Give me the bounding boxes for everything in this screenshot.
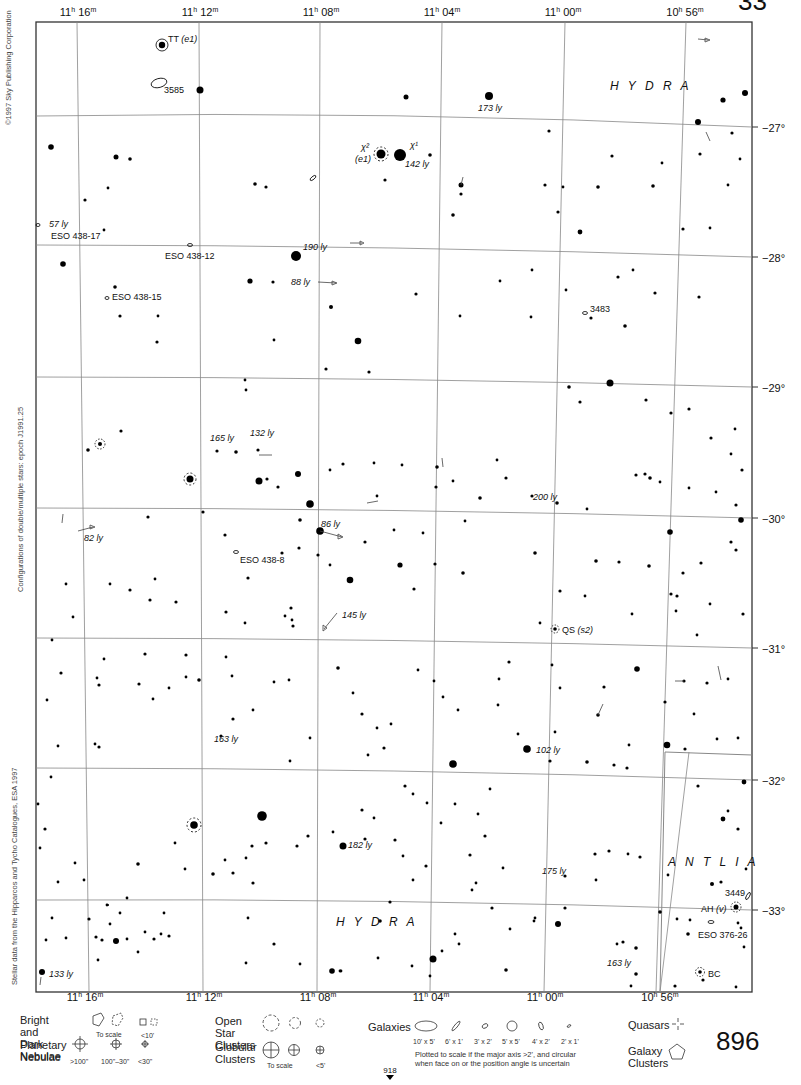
ra-label: 10h 56m [641,991,678,1003]
data-source-note: Stellar data from the Hipparcos and Tych… [10,768,19,986]
next-page-ref[interactable]: 918 [380,1066,400,1075]
top-page-fragment: 33 [738,0,767,17]
ra-label: 11h 00m [545,6,582,18]
star-chart: 11h 16m 11h 12m 11h 08m 11h 04m 11h 00m … [0,0,801,1085]
marked-stars [98,442,702,974]
svg-text:−32°: −32° [762,775,785,787]
svg-text:102 ly: 102 ly [536,745,561,755]
svg-text:QS (s2): QS (s2) [562,625,593,635]
svg-text:132 ly: 132 ly [250,428,275,438]
chart-frame [36,22,752,992]
svg-text:88 ly: 88 ly [291,277,311,287]
epoch-note: Configurations of double/multiple stars:… [16,407,25,592]
svg-text:χ¹: χ¹ [409,140,418,150]
ra-label: 11h 00m [527,991,564,1003]
legend-symbols [72,1013,685,1059]
svg-text:3585: 3585 [164,85,184,95]
ra-label: 11h 12m [186,991,223,1003]
legend-planetary-caption: >100" [70,1056,88,1068]
legend-galaxy-size: 5' x 5' [502,1036,520,1048]
legend-galaxy-size: 6' x 1' [445,1036,463,1048]
svg-text:142 ly: 142 ly [405,159,430,169]
svg-text:ESO 438-17: ESO 438-17 [51,231,101,241]
svg-text:182 ly: 182 ly [348,840,373,850]
variable-star-markers [95,39,741,977]
ra-label: 11h 16m [67,991,104,1003]
svg-text:57 ly: 57 ly [49,219,69,229]
svg-text:86 ly: 86 ly [321,519,341,529]
page-number: 896 [716,1026,759,1057]
ra-labels-top: 11h 16m 11h 12m 11h 08m 11h 04m 11h 00m … [60,6,704,18]
svg-text:ESO 376-26: ESO 376-26 [698,930,748,940]
faint-stars [37,129,748,988]
svg-text:133 ly: 133 ly [49,969,74,979]
legend-globular-caption: <5' [316,1060,325,1072]
legend-planetary-caption: 100"–30" [101,1056,129,1068]
svg-text:165 ly: 165 ly [210,433,235,443]
ra-label: 11h 04m [424,6,461,18]
legend-planetary-label: Planetary Nebulae [20,1039,66,1063]
svg-text:145 ly: 145 ly [342,610,367,620]
constellation-boundary [660,752,752,992]
svg-text:190 ly: 190 ly [303,242,328,252]
next-page-arrow-icon[interactable] [386,1075,394,1080]
legend-galaxy-size: 10' x 5' [413,1036,435,1048]
ra-label: 11h 08m [303,6,340,18]
legend-globular-caption: To scale [267,1060,293,1072]
legend-globular-label: Globular Clusters [215,1041,257,1065]
svg-text:200 ly: 200 ly [532,492,558,502]
dec-grid-lines [36,114,752,910]
legend-planetary-caption: <30" [138,1056,152,1068]
svg-text:−31°: −31° [762,643,785,655]
svg-text:TT (e1): TT (e1) [168,34,197,44]
svg-text:A N T L I A: A N T L I A [667,855,759,869]
svg-text:−30°: −30° [762,513,785,525]
ra-labels-bottom: 11h 16m 11h 12m 11h 08m 11h 04m 11h 00m … [67,991,679,1003]
legend-galaxy-size: 3' x 2' [474,1036,492,1048]
ra-label: 10h 56m [666,6,703,18]
ra-grid-lines [77,22,689,992]
svg-text:H Y D R A: H Y D R A [336,915,417,929]
copyright-text: ©1997 Sky Publishing Corporation [4,10,13,125]
svg-text:3449: 3449 [725,888,745,898]
svg-text:−27°: −27° [762,122,785,134]
legend-nebulae-caption: To scale [96,1029,122,1041]
legend-galaxy-size: 2' x 1' [561,1036,579,1048]
svg-text:ESO 438-8: ESO 438-8 [240,555,285,565]
svg-text:(e1): (e1) [355,154,371,164]
dec-ticks [752,127,758,910]
svg-text:−29°: −29° [762,382,785,394]
galaxies [36,77,751,924]
svg-text:173 ly: 173 ly [478,103,503,113]
svg-text:AH (v): AH (v) [701,904,727,914]
svg-text:H Y D R A: H Y D R A [610,79,691,93]
svg-text:ESO 438-15: ESO 438-15 [112,292,162,302]
svg-text:BC: BC [708,969,721,979]
svg-text:−33°: −33° [762,905,785,917]
constellation-names: H Y D R A H Y D R A A N T L I A [336,79,759,929]
svg-text:χ²: χ² [360,142,370,152]
svg-text:175 ly: 175 ly [542,866,567,876]
object-labels: TT (e1) 3585 173 ly χ² (e1) χ¹ 142 ly 57… [49,34,748,979]
dec-labels: −27°−28°−29° −30°−31°−32° −33° [762,122,785,917]
svg-text:3483: 3483 [590,304,610,314]
svg-text:82 ly: 82 ly [84,533,104,543]
svg-text:−28°: −28° [762,252,785,264]
svg-text:ESO 438-12: ESO 438-12 [165,251,215,261]
ra-label: 11h 16m [60,6,97,18]
svg-text:163 ly: 163 ly [607,958,632,968]
galaxy-plot-note: Plotted to scale if the major axis >2', … [415,1050,576,1068]
proper-motion-arrows [40,38,721,985]
svg-text:163 ly: 163 ly [214,734,239,744]
ra-label: 11h 04m [413,991,450,1003]
ra-label: 11h 08m [300,991,337,1003]
legend-quasars-label: Quasars [628,1019,670,1031]
ra-label: 11h 12m [182,6,219,18]
legend-galaxies-label: Galaxies [368,1021,411,1033]
legend-galaxy-clusters-label: Galaxy Clusters [628,1045,668,1069]
legend-galaxy-size: 4' x 2' [532,1036,550,1048]
legend-nebulae-caption: <10' [141,1030,154,1042]
